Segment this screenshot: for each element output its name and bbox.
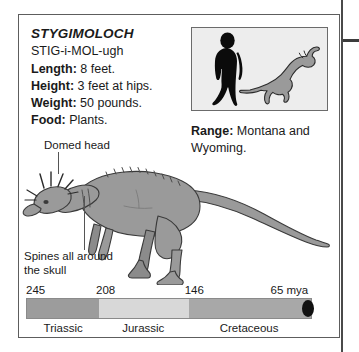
scale-comparison-box bbox=[191, 27, 328, 111]
stat-row-height: Height: 3 feet at hips. bbox=[31, 78, 196, 95]
extinction-marker-icon bbox=[302, 300, 314, 317]
page-edge-line bbox=[341, 0, 343, 352]
period-label-triassic: Triassic bbox=[44, 321, 83, 336]
leader-line-domed-head bbox=[58, 152, 59, 174]
timeline-tick-65-mya: 65 mya bbox=[271, 283, 309, 297]
stat-row-length: Length: 8 feet. bbox=[31, 61, 196, 78]
species-pronunciation: STIG-i-MOL-ugh bbox=[31, 43, 196, 60]
timeline-segment-triassic bbox=[27, 299, 99, 318]
leader-line-spines bbox=[84, 196, 85, 250]
scale-comparison-graphic bbox=[192, 28, 326, 109]
human-silhouette-icon bbox=[212, 33, 242, 106]
timeline-segment-cretaceous bbox=[189, 299, 311, 318]
stat-label-weight: Weight: bbox=[31, 96, 77, 110]
stat-label-food: Food: bbox=[31, 113, 66, 127]
stat-value-food: Plants. bbox=[66, 113, 108, 127]
timeline-period-labels: Triassic Jurassic Cretaceous bbox=[26, 321, 312, 337]
annotation-domed-head: Domed head bbox=[44, 138, 110, 152]
annotation-spines: Spines all around the skull bbox=[24, 249, 129, 277]
species-info-block: STYGIMOLOCH STIG-i-MOL-ugh Length: 8 fee… bbox=[31, 25, 196, 129]
species-name: STYGIMOLOCH bbox=[31, 25, 196, 42]
dinosaur-silhouette-icon bbox=[240, 47, 320, 104]
timeline-tick-labels: 245 208 146 65 mya bbox=[26, 283, 312, 298]
range-label: Range: bbox=[191, 124, 233, 138]
period-label-jurassic: Jurassic bbox=[122, 321, 164, 336]
timeline-tick-208: 208 bbox=[96, 283, 115, 297]
stat-row-weight: Weight: 50 pounds. bbox=[31, 95, 196, 112]
timeline-segment-jurassic bbox=[99, 299, 188, 318]
timeline-tick-245: 245 bbox=[26, 283, 45, 297]
stat-label-height: Height: bbox=[31, 79, 74, 93]
stat-value-length: 8 feet. bbox=[77, 62, 115, 76]
period-label-cretaceous: Cretaceous bbox=[220, 321, 279, 336]
stat-label-length: Length: bbox=[31, 62, 77, 76]
page-edge-tick-mark bbox=[343, 39, 359, 42]
stat-row-food: Food: Plants. bbox=[31, 112, 196, 129]
timeline-tick-146: 146 bbox=[185, 283, 204, 297]
timeline-bar bbox=[26, 298, 312, 319]
geologic-timeline: 245 208 146 65 mya Triassic Jurassic Cre… bbox=[26, 283, 312, 333]
stat-value-height: 3 feet at hips. bbox=[74, 79, 153, 93]
stat-value-weight: 50 pounds. bbox=[77, 96, 142, 110]
